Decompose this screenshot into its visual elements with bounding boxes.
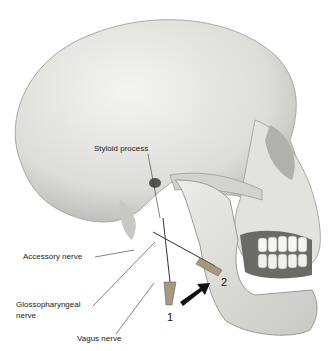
label-glossopharyngeal-line1: Glossopharyngeal	[16, 300, 80, 310]
external-auditory-meatus	[149, 178, 161, 188]
needle-1-hub	[164, 282, 176, 305]
accessory-leader	[95, 250, 134, 257]
arrow-icon	[180, 283, 210, 306]
label-accessory-nerve: Accessory nerve	[23, 252, 82, 262]
needle-1-number: 1	[167, 311, 173, 323]
upper-teeth	[258, 236, 307, 252]
needle-2-number: 2	[221, 276, 227, 288]
needle-1-shaft	[163, 218, 170, 282]
label-styloid-process: Styloid process	[94, 144, 148, 154]
label-glossopharyngeal-line2: nerve	[16, 311, 36, 321]
label-vagus-nerve: Vagus nerve	[77, 334, 121, 344]
skull-figure	[0, 0, 332, 351]
vagus-leader	[116, 283, 154, 334]
lower-teeth	[258, 254, 307, 269]
